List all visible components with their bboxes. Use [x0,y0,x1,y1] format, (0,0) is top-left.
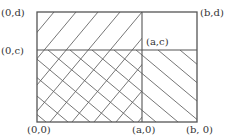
label-b-0: (b, 0) [186,124,213,135]
outer-rectangle [37,12,197,122]
forward-hatch-region [0,12,230,122]
label-a-0: (a,0) [132,124,155,135]
label-a-c: (a,c) [146,36,169,47]
label-0-0: (0,0) [27,124,51,135]
label-b-d: (b,d) [200,7,224,18]
rectangle-partition-diagram: (0,d) (b,d) (0,c) (a,c) (0,0) (a,0) (b, … [0,0,232,137]
label-0-d: (0,d) [1,7,25,18]
label-0-c: (0,c) [1,45,24,56]
